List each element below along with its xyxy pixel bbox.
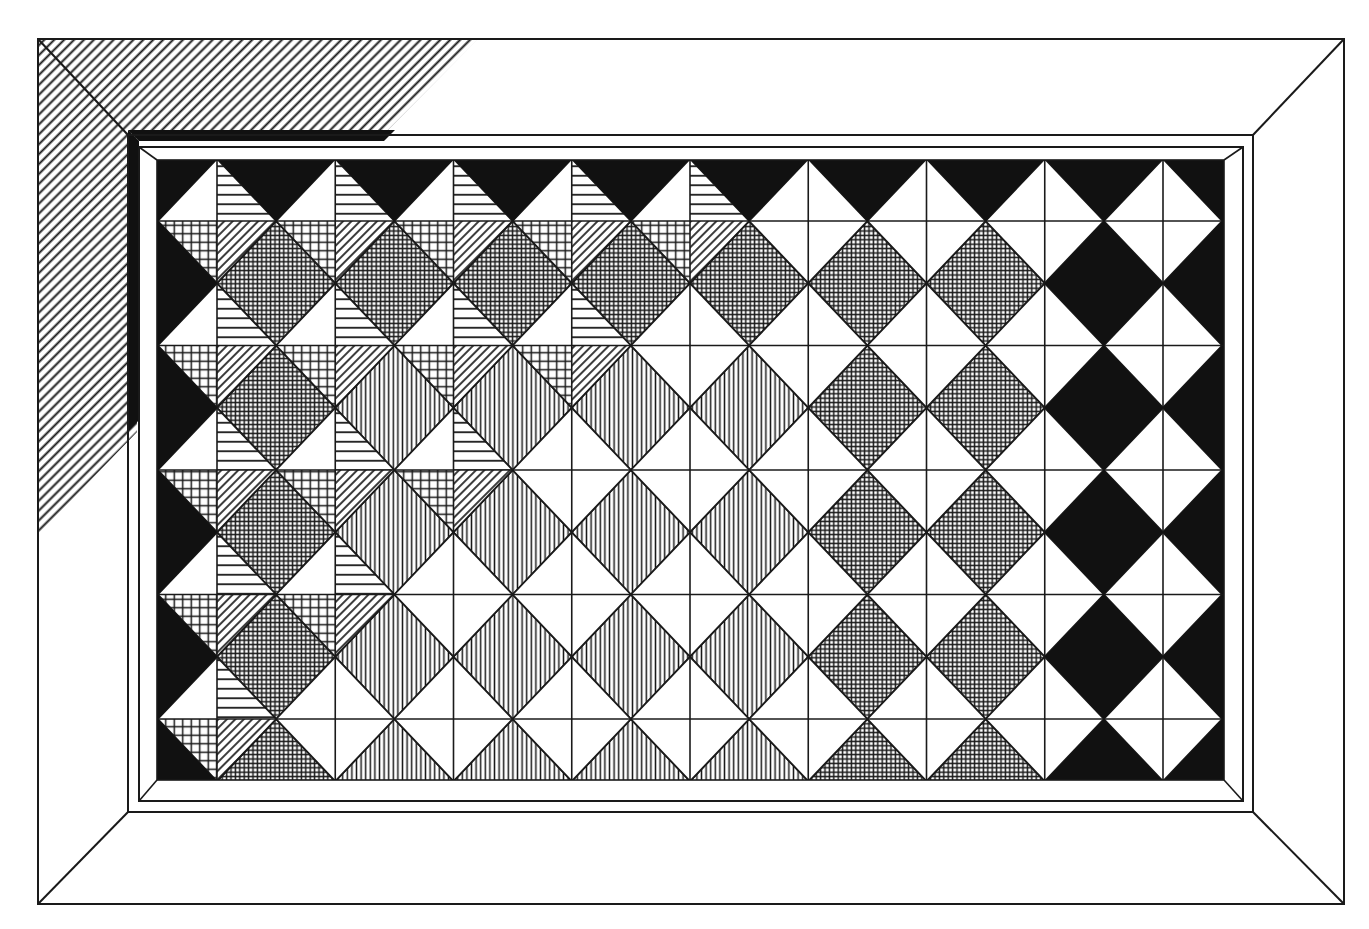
tile-panel [99,97,1281,844]
frame-miter-outer [1253,39,1344,135]
frame-miter-inner [1224,780,1243,801]
frame-miter-inner [139,147,157,160]
frame-miter-inner [1224,147,1243,160]
frame-miter-inner [139,780,157,801]
frame-shadow-strip-left [128,130,139,432]
frame-miter-outer [1253,812,1344,904]
tiled-panel-illustration [0,0,1369,929]
frame-miter-outer [38,812,128,904]
